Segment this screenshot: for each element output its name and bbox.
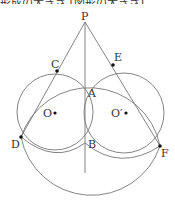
center-o xyxy=(53,111,56,114)
geometry-diagram: P C E A D B F O O′ xyxy=(0,0,175,209)
label-b: B xyxy=(88,138,96,151)
label-f: F xyxy=(161,147,169,160)
label-d: D xyxy=(11,138,20,151)
label-o: O xyxy=(43,107,52,120)
label-p: P xyxy=(81,10,89,23)
label-e: E xyxy=(114,51,122,64)
arc-bf xyxy=(85,143,160,158)
label-c: C xyxy=(51,58,59,71)
label-o-prime: O′ xyxy=(111,107,123,120)
center-o-prime xyxy=(124,111,127,114)
label-a: A xyxy=(87,87,97,100)
